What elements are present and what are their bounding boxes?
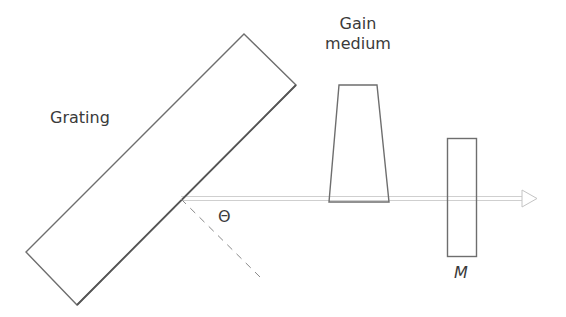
gain-medium-shape [329,85,389,202]
grating-surface [77,85,296,305]
mirror-label: M [454,263,468,283]
grating-shape [26,34,296,305]
laser-cavity-diagram [0,0,566,317]
gain-medium-label-line1: Gain [318,14,398,34]
gain-medium-label: Gain medium [318,14,398,54]
angle-theta-label: Θ [218,207,231,227]
gain-medium-label-line2: medium [318,34,398,54]
output-mirror-shape [448,139,477,257]
beam-arrow [181,190,537,207]
grating-label: Grating [50,108,110,128]
